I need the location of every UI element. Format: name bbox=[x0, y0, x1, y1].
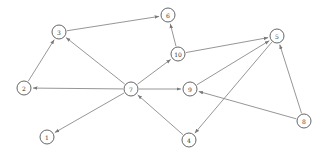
node-label: 4 bbox=[187, 137, 191, 144]
node-label: 3 bbox=[57, 29, 61, 36]
edge-2-to-3 bbox=[28, 40, 54, 82]
node-8: 8 bbox=[297, 114, 311, 128]
node-label: 9 bbox=[188, 86, 192, 93]
node-3: 3 bbox=[52, 25, 66, 39]
node-5: 5 bbox=[270, 29, 284, 43]
edge-7-to-1 bbox=[55, 93, 124, 133]
edge-9-to-5 bbox=[197, 41, 269, 85]
nodes-layer: 12345678910 bbox=[17, 8, 311, 147]
node-4: 4 bbox=[182, 133, 196, 147]
node-label: 8 bbox=[302, 118, 306, 125]
node-label: 10 bbox=[174, 51, 182, 58]
edge-5-to-4 bbox=[195, 42, 272, 133]
edge-3-to-6 bbox=[67, 16, 159, 30]
node-7: 7 bbox=[124, 82, 138, 96]
node-label: 1 bbox=[45, 134, 49, 141]
edge-10-to-5 bbox=[186, 38, 268, 53]
edge-7-to-2 bbox=[33, 88, 123, 89]
edge-10-to-6 bbox=[170, 24, 176, 47]
node-label: 2 bbox=[22, 85, 26, 92]
node-2: 2 bbox=[17, 81, 31, 95]
node-label: 6 bbox=[166, 12, 170, 19]
edge-8-to-5 bbox=[280, 45, 302, 114]
edge-4-to-7 bbox=[138, 95, 183, 135]
node-6: 6 bbox=[161, 8, 175, 22]
node-label: 5 bbox=[275, 33, 279, 40]
directed-graph: 12345678910 bbox=[0, 0, 325, 154]
node-10: 10 bbox=[171, 47, 185, 61]
edge-7-to-10 bbox=[137, 59, 170, 84]
node-9: 9 bbox=[183, 82, 197, 96]
edges-layer bbox=[28, 16, 301, 134]
edge-8-to-9 bbox=[199, 91, 297, 118]
edge-7-to-3 bbox=[66, 38, 125, 84]
node-label: 7 bbox=[129, 86, 133, 93]
node-1: 1 bbox=[40, 130, 54, 144]
